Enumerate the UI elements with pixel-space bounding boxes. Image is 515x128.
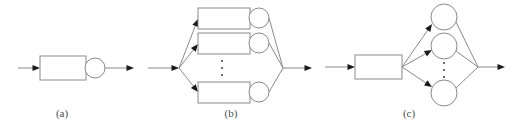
arrow-b-branch-1	[179, 24, 196, 68]
rect-b-2	[198, 33, 250, 54]
panel-caption-c: (c)	[403, 107, 416, 120]
ellipsis-b-dot-1	[221, 60, 223, 62]
rect-b-n	[198, 82, 250, 103]
captions-layer: (a)(b)(c)	[56, 107, 416, 120]
arrow-c-branch-1-head	[425, 24, 432, 32]
panel-c	[325, 4, 505, 106]
arrow-c-out-head	[498, 64, 506, 70]
line-b-merge-n	[269, 68, 283, 92]
figure-container: (a)(b)(c)	[0, 0, 515, 128]
arrow-b-out-head	[305, 65, 313, 71]
ellipsis-b-dot-3	[221, 74, 223, 76]
circle-c-1	[431, 4, 457, 30]
ellipsis-c-dot-1	[443, 62, 445, 64]
line-b-merge-2	[269, 43, 283, 68]
circle-c-2	[431, 33, 457, 59]
arrow-b-branch-n-head	[191, 84, 198, 92]
ellipsis-b-dot-2	[221, 67, 223, 69]
rect-a-1	[40, 56, 86, 80]
line-c-merge-n	[456, 67, 478, 88]
ellipsis-c-dot-3	[443, 76, 445, 78]
rect-c-1	[355, 55, 402, 79]
arrow-b-branch-n	[179, 68, 195, 88]
panel-caption-b: (b)	[225, 107, 238, 120]
circle-a-1	[85, 58, 105, 78]
arrow-c-branch-n-head	[424, 80, 432, 87]
arrow-b-branch-1-head	[192, 19, 198, 27]
line-b-merge-1	[269, 18, 283, 68]
circle-b-n	[249, 82, 269, 102]
arrow-b-in-head	[172, 65, 180, 71]
circle-c-n	[431, 80, 457, 106]
arrow-c-in-head	[348, 64, 356, 70]
arrow-b-branch-2-head	[191, 44, 198, 52]
circle-b-2	[249, 33, 269, 53]
arrow-a-in-head	[33, 65, 41, 71]
arrow-c-branch-2-head	[424, 50, 432, 56]
circle-b-1	[249, 8, 269, 28]
pipeline-architecture-diagram: (a)(b)(c)	[0, 0, 515, 128]
arrow-b-branch-2	[179, 48, 195, 68]
arrow-a-out-head	[127, 65, 135, 71]
panel-b	[148, 8, 312, 103]
line-c-merge-2	[456, 51, 478, 67]
panel-a	[18, 56, 134, 80]
ellipsis-c-dot-2	[443, 69, 445, 71]
arrow-c-branch-n	[402, 67, 427, 84]
arrow-c-branch-1	[402, 29, 429, 67]
rect-b-1	[198, 8, 250, 29]
panel-caption-a: (a)	[56, 107, 69, 120]
line-c-merge-1	[456, 22, 478, 67]
arrow-c-branch-2	[402, 53, 427, 67]
panels-layer	[18, 4, 505, 106]
